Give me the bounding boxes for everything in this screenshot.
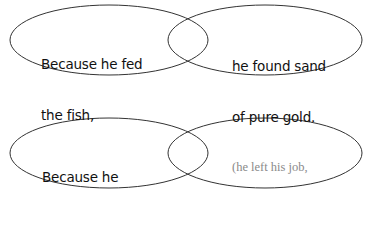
text-line: (he left his job, xyxy=(232,161,308,175)
text-line: of pure gold. xyxy=(232,109,326,126)
cause-text-2: Because he had gold, xyxy=(42,135,118,196)
text-line: he found sand xyxy=(232,58,326,75)
text-line: Because he xyxy=(42,169,118,186)
text-line: the fish, xyxy=(41,107,142,124)
text-line: Because he fed xyxy=(41,56,142,73)
effect-note-2: (he left his job, built a house, bought … xyxy=(232,134,308,196)
